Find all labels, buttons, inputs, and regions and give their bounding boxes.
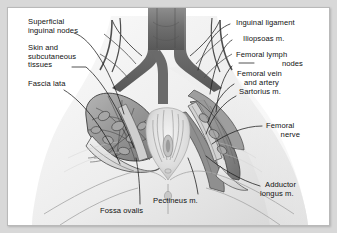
label-inguinal-ligament: Inguinal ligament [236, 19, 295, 28]
label-pectineus-muscle: Pectineus m. [153, 197, 198, 206]
label-superficial-inguinal-nodes: Superficial inguinal nodes [28, 18, 78, 35]
label-sartorius-muscle: Sartorius m. [239, 88, 281, 97]
label-iliopsoas-muscle: Iliopsoas m. [243, 35, 284, 44]
label-fascia-lata: Fascia lata [28, 80, 66, 89]
label-femoral-nerve-second-line: nerve [256, 131, 300, 140]
label-adductor-longus-second-line: longus m. [260, 190, 294, 199]
label-skin-and-subcutaneous-tissues: Skin and subcutaneous tissues [28, 44, 76, 70]
illustration-canvas: Superficial inguinal nodes Skin and subc… [8, 8, 329, 225]
label-femoral-lymph-nodes: Femoral lymph [236, 51, 287, 60]
label-fossa-ovalis: Fossa ovalis [100, 207, 143, 216]
label-femoral-lymph-nodes-second-line: nodes [236, 60, 303, 69]
figure-root: Superficial inguinal nodes Skin and subc… [0, 0, 337, 233]
